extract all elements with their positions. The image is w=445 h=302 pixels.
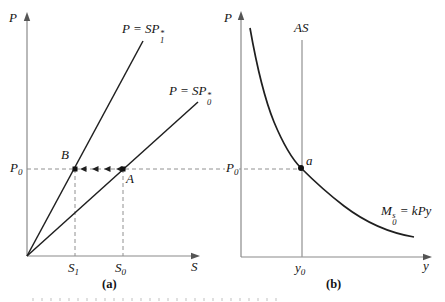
panel-b-y-axis-label: P	[224, 11, 232, 25]
line-p-equals-sp0	[27, 102, 198, 256]
point-a-small-marker	[298, 165, 304, 171]
two-panel-economics-figure: P P = SP*1 P = SP*0 P0 B A S1 S0 S (a) P…	[0, 0, 445, 302]
panel-a-y-axis-arrow-icon	[24, 12, 30, 21]
cropped-caption-sliver	[32, 298, 282, 301]
money-curve-label: Ms0 = kPy	[381, 204, 431, 226]
point-a-small-label: a	[306, 154, 313, 168]
line-sp0-label: P = SP*0	[169, 84, 211, 106]
panel-a-x-axis-label: S	[191, 260, 198, 274]
money-curve-sub: 0	[392, 219, 396, 226]
line-sp0-supsub: *0	[207, 92, 211, 106]
s1-tick-label: S1	[68, 261, 79, 279]
point-a-label: A	[126, 172, 134, 186]
y0-tick-label: y0	[295, 261, 305, 279]
panel-b-caption: (b)	[326, 277, 341, 291]
money-curve-rest: = kPy	[397, 203, 432, 218]
line-p-equals-sp1	[27, 41, 143, 256]
adjustment-arrows-icon	[80, 166, 123, 172]
panel-b-p0-label: P0	[225, 161, 239, 179]
panel-a-y-axis-label: P	[9, 11, 17, 25]
point-b-marker	[73, 167, 78, 172]
point-a-marker	[121, 167, 126, 172]
s0-tick-label: S0	[115, 261, 126, 279]
point-b-label: B	[61, 148, 69, 162]
money-curve-base: M	[381, 203, 392, 218]
line-sp0-sub: 0	[207, 99, 211, 106]
s0-sub: 0	[122, 267, 127, 277]
panel-b-x-axis-label: y	[423, 259, 429, 273]
line-sp1-label: P = SP*1	[122, 22, 164, 44]
panel-b-p0-base: P	[226, 160, 234, 175]
as-curve-label: AS	[294, 21, 308, 35]
panel-b-y-axis-arrow-icon	[238, 11, 244, 20]
s1-sub: 1	[75, 267, 80, 277]
panel-a-p0-sub: 0	[18, 167, 23, 177]
panel-b-p0-sub: 0	[234, 167, 239, 177]
y0-sub: 0	[301, 267, 306, 277]
line-sp1-label-prefix: P = SP	[122, 21, 159, 36]
line-sp1-supsub: *1	[160, 30, 164, 44]
panel-a-p0-label: P0	[10, 161, 22, 179]
panel-a-p0-base: P	[10, 160, 18, 175]
line-sp1-sub: 1	[160, 37, 164, 44]
panel-a-caption: (a)	[102, 277, 117, 291]
line-sp0-label-prefix: P = SP	[169, 83, 206, 98]
